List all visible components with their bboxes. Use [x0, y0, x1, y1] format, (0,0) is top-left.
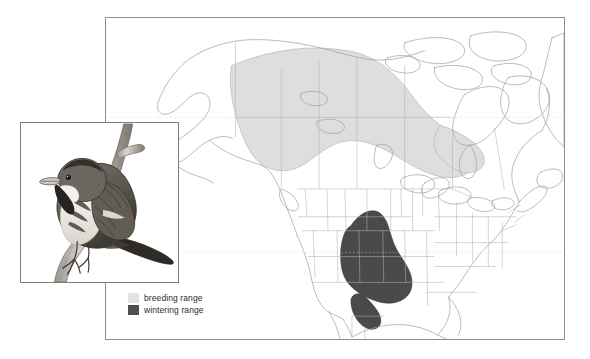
bird-eye: [66, 175, 71, 180]
legend-label-wintering: wintering range: [144, 305, 204, 315]
bird-eye-highlight: [67, 176, 69, 178]
breeding-range-shape: [230, 48, 475, 177]
wintering-range-shape: [341, 211, 412, 303]
bird-illustration-inset: [20, 122, 179, 283]
breeding-range-swatch-icon: [128, 293, 139, 303]
bird-illustration-graphic: [21, 123, 178, 282]
range-map-figure: breeding range wintering range: [0, 0, 590, 359]
legend-item-wintering: wintering range: [128, 304, 204, 315]
legend-item-breeding: breeding range: [128, 292, 204, 303]
legend-label-breeding: breeding range: [144, 293, 203, 303]
map-legend: breeding range wintering range: [128, 292, 204, 316]
wintering-range-swatch-icon: [128, 305, 139, 315]
